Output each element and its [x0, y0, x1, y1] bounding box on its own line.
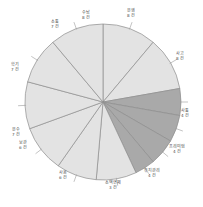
pie-slices-group — [25, 24, 181, 180]
pie-slice-label-count: 4 건 — [144, 174, 160, 179]
pie-slice-label: 소액연체3 건 — [105, 181, 121, 191]
pie-slice-label: 사용6 건 — [59, 171, 67, 181]
pie-slice-label-count: 6 건 — [59, 176, 67, 181]
pie-slice-label: 사고8 건 — [176, 52, 184, 62]
pie-slice-label: 운행8 건 — [127, 9, 135, 19]
pie-slice-label-count: 7 건 — [12, 133, 20, 138]
pie-slice-label-count: 7 건 — [51, 25, 59, 30]
pie-slice-label-count: 7 건 — [11, 68, 19, 73]
pie-slice-label-count: 4 건 — [181, 114, 189, 119]
pie-slice-label: 프리미엄4 건 — [169, 145, 185, 155]
leader-line — [31, 56, 38, 60]
pie-slice-label-count: 6 건 — [19, 146, 27, 151]
pie-slice-label-count: 8 건 — [127, 14, 135, 19]
pie-slice-label: 학기7 건 — [11, 63, 19, 73]
pie-slice-label: 운수7 건 — [12, 128, 20, 138]
pie-slice-label: 보관6 건 — [19, 141, 27, 151]
leader-line — [129, 22, 132, 30]
leader-line — [175, 128, 183, 131]
pie-slice-label-count: 8 건 — [82, 16, 90, 21]
leader-line — [74, 174, 77, 182]
leader-line — [74, 22, 77, 30]
pie-slice-label-count: 8 건 — [176, 57, 184, 62]
pie-slice-label: 수납8 건 — [82, 11, 90, 21]
leader-line — [36, 149, 42, 154]
pie-chart-canvas — [0, 0, 203, 207]
pie-chart: 운행8 건사고8 건사통4 건프리미엄4 건유지관리4 건소액연체3 건사용6 … — [0, 0, 203, 207]
pie-slice-label: 사통4 건 — [181, 109, 189, 119]
leader-line — [162, 151, 168, 156]
pie-slice-label-count: 4 건 — [169, 150, 185, 155]
pie-slice-label-count: 3 건 — [105, 186, 121, 191]
pie-slice-label: 유지관리4 건 — [144, 169, 160, 179]
pie-slice-label: 소통7 건 — [51, 20, 59, 30]
